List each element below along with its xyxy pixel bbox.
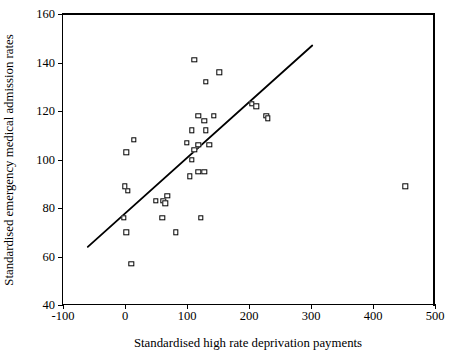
data-point-marker — [124, 230, 129, 235]
regression-line — [63, 14, 435, 305]
y-axis-tick-label: 100 — [36, 153, 55, 166]
data-point-marker — [195, 113, 200, 118]
x-axis-tick-label: 500 — [426, 310, 445, 323]
data-point-marker — [121, 215, 126, 220]
y-axis-tick-label: 120 — [36, 105, 55, 118]
x-axis-tick-label: 400 — [364, 310, 383, 323]
data-point-marker — [164, 193, 169, 198]
data-point-marker — [189, 157, 194, 162]
y-axis-tick-label: 80 — [43, 202, 56, 215]
data-point-marker — [192, 147, 197, 152]
y-axis-tick-label: 140 — [36, 56, 55, 69]
data-point-marker — [202, 118, 207, 123]
plot-area: 406080100120140160-1000100200300400500 — [62, 14, 434, 305]
data-point-marker — [217, 69, 222, 74]
y-axis-title-text: Standardised emergency medical admission… — [3, 34, 16, 285]
data-point-marker — [198, 215, 203, 220]
data-point-marker — [211, 113, 216, 118]
x-axis-title: Standardised high rate deprivation payme… — [62, 337, 434, 350]
y-axis-tick-label: 160 — [36, 8, 55, 21]
data-point-marker — [203, 79, 208, 84]
x-axis-tick-label: 300 — [302, 310, 321, 323]
x-axis-tick-label: -100 — [52, 310, 75, 323]
data-point-marker — [265, 116, 270, 121]
y-axis-tick — [58, 14, 63, 15]
data-point-marker — [184, 140, 189, 145]
data-point-marker — [128, 261, 133, 266]
data-point-marker — [254, 103, 259, 108]
y-axis-tick — [58, 208, 63, 209]
data-point-marker — [195, 169, 200, 174]
scatter-plot-figure: 406080100120140160-1000100200300400500 S… — [0, 0, 456, 362]
y-axis-tick — [58, 257, 63, 258]
y-axis-tick-label: 60 — [43, 250, 56, 263]
data-point-marker — [207, 142, 212, 147]
data-point-marker — [187, 174, 192, 179]
data-point-marker — [192, 57, 197, 62]
y-axis-tick — [58, 160, 63, 161]
data-point-marker — [163, 200, 168, 205]
data-point-marker — [173, 230, 178, 235]
x-axis-tick-label: 100 — [178, 310, 197, 323]
data-point-marker — [189, 128, 194, 133]
y-axis-tick — [58, 111, 63, 112]
data-point-marker — [202, 169, 207, 174]
y-axis-title: Standardised emergency medical admission… — [0, 14, 18, 305]
y-axis-tick — [58, 63, 63, 64]
data-point-marker — [124, 150, 129, 155]
data-point-marker — [203, 128, 208, 133]
data-point-marker — [403, 183, 408, 188]
data-point-marker — [195, 142, 200, 147]
data-point-marker — [125, 188, 130, 193]
x-axis-tick-label: 0 — [122, 310, 128, 323]
data-point-marker — [153, 198, 158, 203]
x-axis-tick-label: 200 — [240, 310, 259, 323]
data-point-marker — [131, 137, 136, 142]
data-point-marker — [159, 215, 164, 220]
